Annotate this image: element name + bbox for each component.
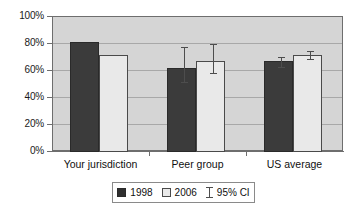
x-axis-label-us-average: US average (246, 158, 343, 170)
y-axis-line (52, 16, 53, 152)
error-bar-glyph-icon (206, 187, 213, 198)
bar-peer-group-1998 (167, 68, 196, 152)
y-tick-60 (47, 70, 52, 71)
legend-item-ci: 95% CI (206, 187, 250, 198)
x-axis-label-peer-group: Peer group (149, 158, 246, 170)
error-bar-cap-bottom-peer-group-1998 (181, 82, 188, 83)
y-axis-label-40: 40% (0, 92, 44, 102)
y-axis-label-80: 80% (0, 38, 44, 48)
y-tick-40 (47, 97, 52, 98)
dark-square-swatch-icon (117, 188, 126, 197)
y-axis-label-20: 20% (0, 119, 44, 129)
legend-label-ci: 95% CI (217, 188, 250, 198)
error-bar-cap-bottom-peer-group-2006 (210, 73, 217, 74)
error-bar-cap-bottom-us-average-1998 (278, 67, 285, 68)
legend-label-2006: 2006 (175, 188, 197, 198)
error-bar-cap-top-peer-group-1998 (181, 47, 188, 48)
bar-your-jurisdiction-2006 (99, 55, 128, 152)
y-tick-80 (47, 43, 52, 44)
error-bar-cap-bottom-us-average-2006 (307, 59, 314, 60)
y-tick-100 (47, 16, 52, 17)
y-axis-label-0: 0% (0, 146, 44, 156)
bar-your-jurisdiction-1998 (70, 42, 99, 152)
error-bar-cap-top-peer-group-2006 (210, 44, 217, 45)
bar-us-average-2006 (293, 55, 322, 152)
error-bar-peer-group-1998 (184, 47, 185, 83)
error-bar-peer-group-2006 (213, 44, 214, 74)
error-bar-cap-top-us-average-2006 (307, 51, 314, 52)
y-axis-label-60: 60% (0, 65, 44, 75)
x-axis-label-your-jurisdiction: Your jurisdiction (52, 158, 149, 170)
bar-peer-group-2006 (196, 61, 225, 152)
bar-us-average-1998 (264, 61, 293, 152)
legend-item-2006: 2006 (162, 188, 197, 198)
light-square-swatch-icon (162, 188, 171, 197)
x-axis-separator-1 (149, 151, 150, 156)
legend-label-1998: 1998 (130, 188, 152, 198)
bar-chart: 100% 80% 60% 40% 20% 0% Your jurisdictio… (0, 0, 363, 209)
legend-item-1998: 1998 (117, 188, 152, 198)
x-axis-separator-2 (246, 151, 247, 156)
y-axis-label-100: 100% (0, 11, 44, 21)
y-tick-20 (47, 124, 52, 125)
legend: 1998 2006 95% CI (112, 182, 255, 203)
error-bar-cap-top-us-average-1998 (278, 57, 285, 58)
